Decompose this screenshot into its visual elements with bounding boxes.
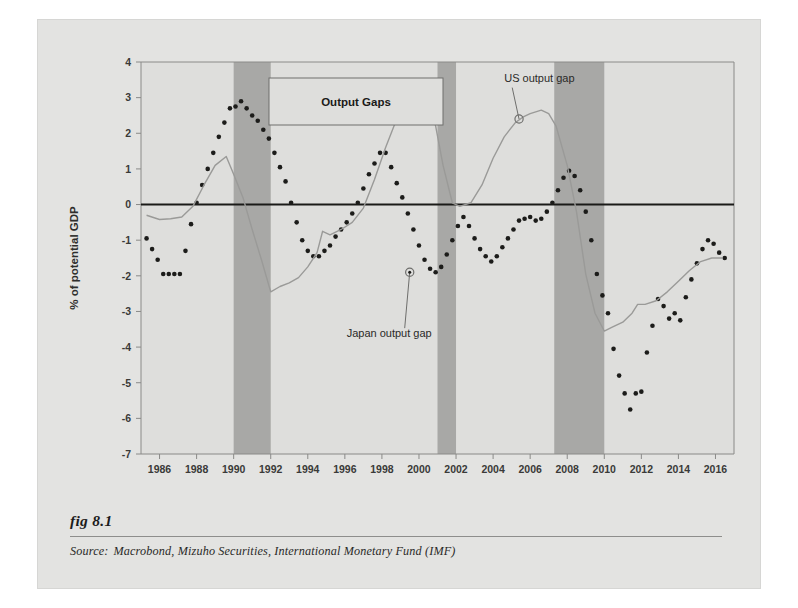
data-point	[272, 151, 277, 156]
data-point	[394, 181, 399, 186]
data-point	[572, 174, 577, 179]
data-point	[300, 238, 305, 243]
chart-figure: 43210-1-2-3-4-5-6-7198619881990199219941…	[38, 20, 760, 510]
data-point	[183, 249, 188, 254]
data-point	[645, 350, 650, 355]
data-point	[500, 245, 505, 250]
data-point	[717, 250, 722, 255]
x-tick-label: 2004	[481, 463, 505, 475]
data-point	[617, 373, 622, 378]
x-tick-label: 1996	[333, 463, 357, 475]
y-tick-label: -2	[122, 270, 131, 282]
annotation-marker-dot	[408, 271, 411, 274]
data-point	[389, 165, 394, 170]
data-point	[222, 120, 227, 125]
data-point	[166, 272, 171, 277]
x-tick-label: 1998	[370, 463, 394, 475]
data-point	[283, 179, 288, 184]
data-point	[667, 316, 672, 321]
data-point	[689, 277, 694, 282]
annotation-label: US output gap	[504, 72, 574, 84]
data-point	[472, 236, 477, 241]
data-point	[261, 127, 266, 132]
output-gaps-chart: 43210-1-2-3-4-5-6-7198619881990199219941…	[38, 20, 760, 510]
x-tick-label: 1990	[222, 463, 246, 475]
data-point	[400, 195, 405, 200]
figure-number: fig 8.1	[70, 512, 722, 534]
data-point	[722, 256, 727, 261]
x-tick-label: 2012	[630, 463, 654, 475]
data-point	[467, 224, 472, 229]
data-point	[433, 270, 438, 275]
data-point	[244, 106, 249, 111]
data-point	[333, 234, 338, 239]
data-point	[344, 220, 349, 225]
data-point	[255, 119, 260, 124]
data-point	[506, 236, 511, 241]
data-point	[278, 165, 283, 170]
y-tick-label: -5	[122, 377, 131, 389]
data-point	[317, 254, 322, 259]
data-point	[228, 106, 233, 111]
source-text: Macrobond, Mizuho Securities, Internatio…	[114, 544, 456, 558]
data-point	[294, 220, 299, 225]
data-point	[706, 238, 711, 243]
data-point	[150, 247, 155, 252]
y-tick-label: 1	[125, 163, 131, 175]
y-axis-title: % of potential GDP	[68, 206, 80, 310]
data-point	[589, 238, 594, 243]
data-point	[411, 227, 416, 232]
data-point	[378, 151, 383, 156]
data-point	[672, 311, 677, 316]
y-tick-label: -7	[122, 448, 131, 460]
data-point	[161, 272, 166, 277]
data-point	[239, 99, 244, 104]
x-tick-label: 2006	[518, 463, 542, 475]
data-point	[367, 172, 372, 177]
data-point	[556, 188, 561, 193]
data-point	[178, 272, 183, 277]
data-point	[528, 215, 533, 220]
y-tick-label: -1	[122, 234, 131, 246]
data-point	[356, 200, 361, 205]
data-point	[600, 293, 605, 298]
data-point	[406, 211, 411, 216]
data-point	[350, 211, 355, 216]
y-tick-label: 0	[125, 198, 131, 210]
data-point	[533, 218, 538, 223]
data-point	[444, 252, 449, 257]
data-point	[461, 215, 466, 220]
data-point	[305, 249, 310, 254]
figure-page: 43210-1-2-3-4-5-6-7198619881990199219941…	[0, 0, 798, 608]
x-tick-label: 1992	[259, 463, 283, 475]
data-point	[155, 257, 160, 262]
data-point	[517, 218, 522, 223]
data-point	[650, 323, 655, 328]
data-point	[417, 243, 422, 248]
y-tick-label: 3	[125, 91, 131, 103]
data-point	[233, 104, 238, 109]
data-point	[322, 249, 327, 254]
data-point	[478, 247, 483, 252]
y-tick-label: -3	[122, 305, 131, 317]
annotation-label: Japan output gap	[347, 327, 432, 339]
x-tick-label: 1988	[185, 463, 209, 475]
data-point	[595, 272, 600, 277]
data-point	[606, 311, 611, 316]
data-point	[489, 259, 494, 264]
data-point	[539, 217, 544, 222]
data-point	[172, 272, 177, 277]
data-point	[456, 224, 461, 229]
data-point	[328, 243, 333, 248]
y-tick-label: 2	[125, 127, 131, 139]
data-point	[267, 136, 272, 141]
data-point	[205, 167, 210, 172]
data-point	[661, 304, 666, 309]
data-point	[211, 151, 216, 156]
legend-title: Output Gaps	[321, 96, 391, 108]
y-tick-label: -6	[122, 412, 131, 424]
data-point	[495, 254, 500, 259]
data-point	[583, 209, 588, 214]
x-tick-label: 1986	[148, 463, 172, 475]
data-point	[622, 391, 627, 396]
